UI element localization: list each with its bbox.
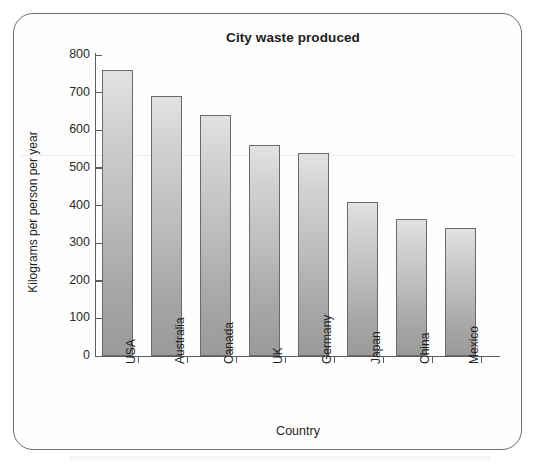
y-axis-tick-label-text: 800 bbox=[56, 48, 90, 61]
y-axis-tick-label: 0 bbox=[52, 349, 90, 361]
y-axis-tick-label-text: 100 bbox=[56, 311, 90, 324]
x-axis-tick bbox=[187, 357, 188, 363]
y-axis-title: Kilograms per person per year bbox=[26, 117, 40, 307]
y-axis-tick-label-text: 400 bbox=[56, 199, 90, 212]
y-axis-tick-label-text: 0 bbox=[56, 349, 90, 362]
y-axis-tick-label-text: 500 bbox=[56, 161, 90, 174]
bar-canada[interactable] bbox=[200, 115, 231, 356]
x-axis-title: Country bbox=[96, 424, 500, 438]
y-axis-tick bbox=[96, 55, 102, 56]
x-axis-tick bbox=[383, 357, 384, 363]
y-axis-tick-label-text: 300 bbox=[56, 236, 90, 249]
x-axis-tick bbox=[432, 357, 433, 363]
y-axis-tick-label: 400 bbox=[52, 199, 90, 211]
x-axis-label-usa: USA bbox=[124, 339, 138, 364]
x-axis-tick bbox=[138, 357, 139, 363]
screenshot-root: City waste produced 01002003004005006007… bbox=[0, 0, 533, 470]
y-axis-tick-label: 600 bbox=[52, 123, 90, 135]
x-axis-label-canada: Canada bbox=[222, 322, 236, 364]
x-axis-tick bbox=[285, 357, 286, 363]
x-axis-label-australia: Australia bbox=[173, 317, 187, 364]
y-axis-tick-label: 800 bbox=[52, 48, 90, 60]
bar-usa[interactable] bbox=[102, 70, 133, 356]
x-axis-tick bbox=[481, 357, 482, 363]
y-axis-tick-label-text: 700 bbox=[56, 86, 90, 99]
bar-uk[interactable] bbox=[249, 145, 280, 356]
y-axis-tick-label-text: 600 bbox=[56, 123, 90, 136]
x-axis-tick bbox=[334, 357, 335, 363]
bar-chart: City waste produced 01002003004005006007… bbox=[0, 0, 533, 470]
x-axis-label-mexico: Mexico bbox=[467, 326, 481, 364]
y-axis-tick-label: 300 bbox=[52, 236, 90, 248]
x-axis-tick bbox=[236, 357, 237, 363]
y-axis-tick-label: 700 bbox=[52, 86, 90, 98]
y-axis-tick-label: 100 bbox=[52, 311, 90, 323]
x-axis-label-japan: Japan bbox=[369, 331, 383, 364]
x-axis-label-china: China bbox=[418, 333, 432, 364]
y-axis-tick-label: 200 bbox=[52, 274, 90, 286]
chart-title: City waste produced bbox=[133, 30, 453, 45]
x-axis-line bbox=[95, 356, 500, 357]
y-axis-tick-label: 500 bbox=[52, 161, 90, 173]
x-axis-label-uk: UK bbox=[271, 347, 285, 364]
x-axis-label-germany: Germany bbox=[320, 315, 334, 364]
y-axis-tick-label-text: 200 bbox=[56, 274, 90, 287]
